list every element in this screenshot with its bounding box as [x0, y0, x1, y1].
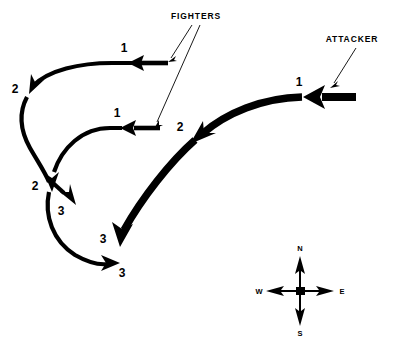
fighter-south-waypoint-1-label: 1	[114, 106, 121, 120]
attacker-annotation: ATTACKER	[326, 34, 379, 88]
attacker-waypoint-1-arrowhead	[303, 85, 325, 109]
attacker-waypoint-1-label: 1	[296, 75, 303, 89]
tactical-diagram: 1 2 1 2 3 3 1	[0, 0, 416, 340]
fighter-south-path	[54, 128, 122, 172]
fighter-north-waypoint-2-label: 2	[12, 82, 19, 96]
fighter-north-waypoint-1-label: 1	[121, 41, 128, 55]
fighter-south-waypoint-3-label: 3	[58, 204, 65, 218]
attacker-continuation-path	[124, 140, 195, 230]
compass-west-label: W	[255, 287, 263, 296]
compass-south-arm	[295, 290, 305, 326]
compass-rose: N E S W	[255, 244, 344, 338]
fighter-south-waypoint-2-label: 2	[32, 179, 39, 193]
fighter-south-waypoint-1-arrowhead	[120, 120, 136, 136]
attacker-waypoint-2-label: 2	[177, 120, 184, 134]
fighters-annotation: FIGHTERS	[154, 11, 221, 129]
attacker-track: 1 2 3	[100, 75, 356, 247]
fighters-label: FIGHTERS	[171, 11, 221, 21]
attacker-path	[202, 97, 302, 134]
attacker-label: ATTACKER	[326, 34, 379, 44]
fighters-leader-line-1	[171, 25, 192, 58]
fighter-south-branch-path	[53, 183, 64, 193]
fighter-north-track: 1 2	[12, 41, 168, 182]
fighter-continuation-path	[48, 192, 108, 264]
compass-west-arm	[266, 286, 300, 296]
compass-south-label: S	[297, 329, 302, 338]
fighters-leader-1-arrowhead	[168, 56, 177, 62]
compass-north-label: N	[297, 244, 302, 253]
compass-center-hub	[296, 287, 305, 295]
fighter-south-waypoint-3-arrowhead	[60, 184, 76, 205]
compass-east-arm	[300, 286, 334, 296]
fighter-north-path	[33, 63, 133, 86]
diagram-canvas: 1 2 1 2 3 3 1	[0, 0, 416, 340]
attacker-waypoint-3-label: 3	[100, 232, 107, 246]
fighter-continuation-waypoint-3-label: 3	[119, 266, 126, 280]
compass-north-arm	[295, 256, 305, 290]
compass-east-label: E	[339, 287, 344, 296]
attacker-leader-line	[334, 48, 356, 83]
fighter-north-continuation-path	[22, 97, 49, 182]
fighters-leader-line-2	[157, 25, 200, 122]
